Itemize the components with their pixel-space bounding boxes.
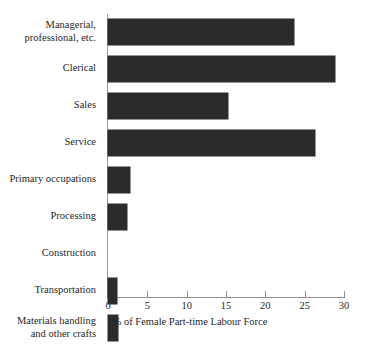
category-label-line: Primary occupations	[9, 173, 96, 186]
bar-7	[108, 278, 117, 304]
bar-2	[108, 93, 228, 119]
bar-0	[108, 19, 294, 45]
x-axis-title-text: % of Female Part-time Labour Force	[113, 316, 268, 327]
category-label-line: professional, etc.	[0, 32, 96, 45]
category-label-3: Service	[65, 136, 97, 149]
x-tick-label-25: 25	[290, 300, 320, 312]
x-tick-20	[265, 291, 266, 297]
category-label-line: Transportation	[35, 284, 96, 297]
bar-5	[108, 204, 127, 230]
category-label-4: Primary occupations	[9, 173, 96, 186]
x-tick-label-10: 10	[172, 300, 202, 312]
category-label-2: Sales	[74, 99, 96, 112]
category-label-line: and other crafts	[0, 328, 96, 341]
category-label-7: Transportation	[35, 284, 96, 297]
x-tick-label-20: 20	[250, 300, 280, 312]
x-tick-15	[226, 291, 227, 297]
category-label-line: Sales	[74, 99, 96, 112]
bar-4	[108, 167, 130, 193]
x-axis-title: % of Female Part-time Labour Force	[0, 316, 366, 327]
category-label-line: Managerial,	[0, 19, 96, 32]
category-label-line: Service	[65, 136, 97, 149]
category-label-5: Processing	[51, 210, 97, 223]
x-tick-label-15: 15	[211, 300, 241, 312]
category-label-1: Clerical	[63, 62, 96, 75]
x-tick-label-30: 30	[329, 300, 359, 312]
bar-3	[108, 130, 315, 156]
x-tick-5	[147, 291, 148, 297]
category-label-line: Construction	[42, 247, 96, 260]
category-label-line: Processing	[51, 210, 97, 223]
x-axis-line	[107, 297, 345, 298]
x-tick-label-5: 5	[132, 300, 162, 312]
x-tick-25	[305, 291, 306, 297]
category-label-line: Clerical	[63, 62, 96, 75]
bar-chart: 051015202530 Managerial,professional, et…	[0, 0, 366, 349]
category-label-6: Construction	[42, 247, 96, 260]
x-tick-30	[344, 291, 345, 297]
x-tick-10	[187, 291, 188, 297]
category-label-0: Managerial,professional, etc.	[0, 19, 96, 44]
bar-1	[108, 56, 335, 82]
